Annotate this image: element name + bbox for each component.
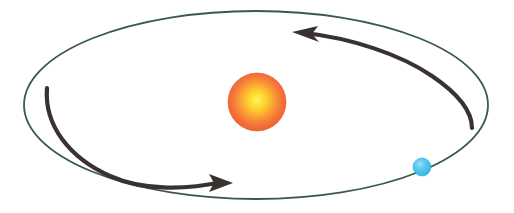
direction-arc-lower xyxy=(47,88,222,188)
direction-arc-upper xyxy=(305,33,472,128)
orbit-diagram: Planetary orbit around the Sun Sun Plane… xyxy=(0,0,514,213)
orbit-diagram-canvas xyxy=(0,0,514,213)
